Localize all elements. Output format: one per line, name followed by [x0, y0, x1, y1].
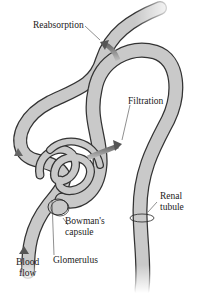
nephron-diagram: Reabsorption Filtration Renal tubule Bow…	[0, 0, 207, 293]
label-bowmans-2: capsule	[65, 227, 94, 237]
fade-top	[135, 0, 175, 30]
label-renal-tubule-1: Renal	[160, 191, 183, 201]
label-blood-flow-1: Blood	[16, 257, 39, 267]
label-filtration: Filtration	[128, 96, 164, 106]
label-blood-flow-2: flow	[19, 268, 37, 278]
label-reabsorption: Reabsorption	[33, 20, 84, 30]
label-glomerulus: Glomerulus	[53, 255, 98, 265]
filtration-leader	[122, 105, 130, 140]
fade-bottom	[125, 265, 165, 293]
label-renal-tubule-2: tubule	[160, 202, 184, 212]
reabsorption-leader	[85, 26, 100, 40]
label-bowmans-1: Bowman's	[65, 216, 105, 226]
renal-tubule-leader	[148, 202, 157, 212]
